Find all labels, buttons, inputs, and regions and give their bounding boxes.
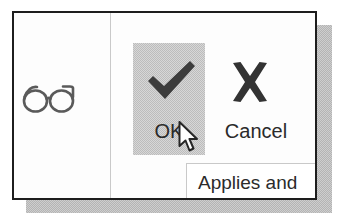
ok-button-label: OK	[133, 119, 205, 143]
ok-button[interactable]: OK	[133, 43, 205, 155]
screenshot-root: OK Cancel Applies and	[0, 0, 338, 217]
sub-panel: Applies and	[186, 163, 317, 198]
column-divider	[110, 13, 111, 198]
cancel-button[interactable]: Cancel	[208, 43, 314, 155]
checkmark-icon	[145, 59, 197, 103]
cancel-button-label: Cancel	[208, 119, 304, 143]
cross-icon	[229, 61, 271, 103]
eyeglasses-icon[interactable]	[20, 75, 78, 117]
applies-text: Applies and	[198, 172, 297, 194]
dialog-window: OK Cancel Applies and	[12, 11, 317, 200]
